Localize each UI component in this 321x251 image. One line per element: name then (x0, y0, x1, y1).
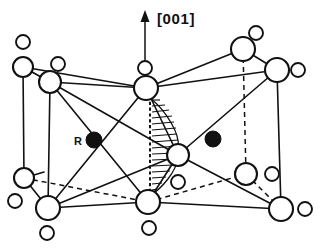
cell-edge (277, 70, 281, 209)
atom-small (40, 226, 54, 240)
atom-large (265, 58, 289, 82)
cell-edge (50, 82, 178, 155)
atom-large (36, 196, 60, 220)
cell-edge (23, 67, 24, 178)
hatch-stroke (152, 110, 169, 112)
atom-small (291, 63, 305, 77)
atom-large (231, 37, 255, 61)
cell-edge (178, 155, 281, 209)
atom-large (134, 76, 158, 100)
filled-atoms-group (86, 131, 221, 148)
atom-small (142, 221, 156, 235)
cell-edge (48, 88, 146, 208)
hatch-stroke (152, 116, 172, 118)
atom-small (138, 61, 152, 75)
atom-large (39, 71, 61, 93)
atom-small (298, 202, 312, 216)
atom-large (136, 190, 160, 214)
cell-edge (48, 82, 50, 208)
atom-large (269, 197, 293, 221)
hidden-edge (243, 49, 246, 174)
atom-small (8, 194, 22, 208)
hatch-stroke (152, 134, 177, 136)
atom-small (16, 35, 30, 49)
atom-small (171, 175, 185, 189)
cell-edge (178, 70, 277, 155)
atom-large (235, 163, 257, 185)
crystal-structure-figure: [001] (0, 0, 321, 251)
atom-large (14, 168, 34, 188)
cell-edge (146, 49, 243, 88)
site-label-r: R (74, 135, 82, 147)
atom-filled-second (205, 131, 221, 147)
atom-small (265, 167, 279, 181)
cell-edge (148, 202, 281, 209)
axis-label-001: [001] (157, 10, 195, 27)
axis-arrowhead (141, 10, 150, 22)
atom-large (13, 57, 33, 77)
cell-edge (146, 70, 277, 88)
cell-edge (48, 202, 148, 208)
atom-large (167, 144, 189, 166)
structure-canvas: [001] (0, 0, 321, 251)
atom-small (51, 57, 65, 71)
atom-filled-r-site (86, 132, 102, 148)
atom-small (249, 26, 263, 40)
hatch-stroke (152, 128, 176, 130)
